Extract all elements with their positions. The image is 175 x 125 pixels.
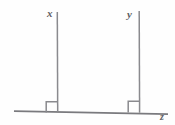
right-right-angle-icon — [128, 101, 139, 112]
axis-label-x: x — [47, 8, 53, 19]
geometry-figure-canvas: x y z — [0, 0, 175, 125]
axis-label-y: y — [127, 9, 132, 20]
left-right-angle-icon — [46, 102, 57, 113]
baseline-z-line — [14, 111, 168, 114]
axis-label-z: z — [160, 112, 164, 122]
geometry-figure-svg — [0, 0, 175, 125]
